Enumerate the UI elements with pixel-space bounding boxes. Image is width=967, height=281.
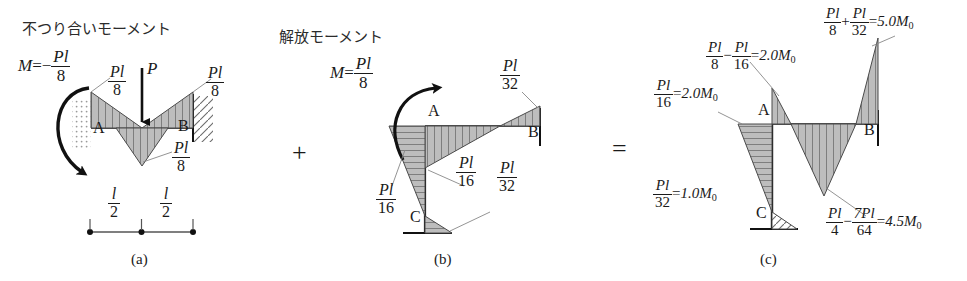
result-value: 1.0M — [680, 185, 711, 201]
pl-numerator: Pl — [376, 182, 396, 200]
plus-operator: + — [292, 140, 307, 166]
panel-b-label-base: Pl32 — [497, 160, 517, 194]
panel-a-heading: 不つり合いモーメント — [22, 22, 171, 37]
node-label-b: B — [528, 124, 539, 140]
panel-b-label-farend: Pl32 — [500, 58, 520, 92]
panel-c-label-column-top: Pl16=2.0M0 — [654, 78, 718, 110]
moment-area-base-b — [425, 216, 452, 233]
pl-numerator: Pl — [850, 6, 869, 23]
pl-numerator: Pl — [354, 55, 373, 74]
moment-area-mid-a — [116, 128, 168, 166]
equals-sign: = — [877, 213, 885, 229]
denominator-8: 8 — [51, 67, 70, 85]
pl-numerator: Pl — [654, 78, 673, 95]
denominator: 8 — [108, 82, 126, 99]
denominator-8: 8 — [354, 74, 373, 92]
subscript-zero: 0 — [713, 92, 718, 103]
panel-b-label-joint: Pl16 — [456, 155, 476, 189]
pl-numerator: 7Pl — [852, 206, 877, 223]
panel-a-label-right: Pl8 — [206, 65, 224, 99]
denominator: 16 — [732, 57, 751, 73]
equals-sign: = — [32, 56, 42, 75]
pl-numerator: Pl — [172, 140, 190, 158]
denominator: 32 — [653, 195, 672, 211]
equals-sign: = — [869, 13, 877, 29]
moment-symbol: M — [18, 56, 32, 75]
denominator: 64 — [852, 223, 877, 239]
panel-a-moment-equation: M=−Pl8 — [18, 48, 70, 84]
panel-c-label-base: Pl32=1.0M0 — [653, 178, 717, 210]
result-value: 2.0M — [759, 47, 790, 63]
denominator: 16 — [456, 173, 476, 190]
equals-operator: = — [612, 136, 627, 162]
node-label-c: C — [756, 205, 767, 221]
node-label-a: A — [428, 103, 440, 119]
denominator: 16 — [376, 200, 396, 217]
panel-b-caption: (b) — [434, 252, 452, 267]
denominator-2: 2 — [160, 204, 172, 221]
denominator: 32 — [850, 23, 869, 39]
denominator: 8 — [172, 158, 190, 175]
moment-spike-a-c — [772, 88, 791, 124]
pl-numerator: Pl — [824, 6, 841, 23]
equals-sign: = — [751, 47, 759, 63]
denominator: 8 — [824, 23, 841, 39]
length-symbol: l — [160, 186, 172, 204]
denominator: 8 — [206, 83, 224, 100]
result-value: 4.5M — [885, 213, 916, 229]
pl-numerator: Pl — [826, 206, 843, 223]
subscript-zero: 0 — [909, 20, 914, 31]
moment-symbol: M — [330, 63, 344, 82]
pl-numerator: Pl — [706, 40, 723, 57]
panel-a-caption: (a) — [131, 252, 148, 267]
denominator: 4 — [826, 223, 843, 239]
node-label-a: A — [93, 120, 105, 136]
left-support-hatch — [72, 100, 91, 148]
subscript-zero: 0 — [916, 220, 921, 231]
panel-b-moment-equation: M=Pl8 — [330, 55, 373, 91]
pl-numerator: Pl — [500, 58, 520, 76]
panel-a-label-left: Pl8 — [108, 64, 126, 98]
pl-numerator: Pl — [206, 65, 224, 83]
pl-numerator: Pl — [732, 40, 751, 57]
denominator: 32 — [497, 178, 517, 195]
length-symbol: l — [108, 186, 120, 204]
pl-numerator: Pl — [497, 160, 517, 178]
node-label-c: C — [410, 209, 421, 225]
panel-c-label-farend: Pl8+Pl32=5.0M0 — [824, 6, 914, 38]
minus-sign: − — [42, 56, 52, 75]
node-label-b: B — [864, 122, 875, 138]
panel-c-caption: (c) — [760, 252, 777, 267]
moment-area-mid-c — [791, 124, 856, 196]
panel-b-heading: 解放モーメント — [279, 30, 383, 45]
right-support-hatch — [193, 96, 213, 142]
result-value: 2.0M — [681, 85, 712, 101]
pl-numerator: Pl — [51, 48, 70, 67]
node-label-a: A — [758, 102, 770, 118]
pl-numerator: Pl — [456, 155, 476, 173]
panel-c-label-mid: Pl4−7Pl64=4.5M0 — [826, 206, 921, 238]
point-load-label: P — [147, 60, 157, 77]
moment-spike-b-c — [856, 38, 878, 124]
subscript-zero: 0 — [712, 192, 717, 203]
pl-numerator: Pl — [653, 178, 672, 195]
moment-area-base-c — [772, 212, 797, 229]
denominator: 32 — [500, 76, 520, 93]
pl-numerator: Pl — [108, 64, 126, 82]
minus-sign: − — [843, 213, 851, 229]
panel-c-label-joint: Pl8−Pl16=2.0M0 — [706, 40, 796, 72]
panel-a-label-mid: Pl8 — [172, 140, 190, 174]
subscript-zero: 0 — [791, 54, 796, 65]
panel-b-label-column: Pl16 — [376, 182, 396, 216]
denominator-2: 2 — [108, 204, 120, 221]
minus-sign: − — [723, 47, 731, 63]
dimension-right-half: l2 — [160, 186, 172, 220]
node-label-b: B — [178, 118, 189, 134]
result-value: 5.0M — [877, 13, 908, 29]
denominator: 16 — [654, 95, 673, 111]
equals-sign: = — [344, 63, 354, 82]
denominator: 8 — [706, 57, 723, 73]
dimension-left-half: l2 — [108, 186, 120, 220]
figure-canvas — [0, 0, 967, 281]
moment-area-column-c — [738, 124, 772, 212]
